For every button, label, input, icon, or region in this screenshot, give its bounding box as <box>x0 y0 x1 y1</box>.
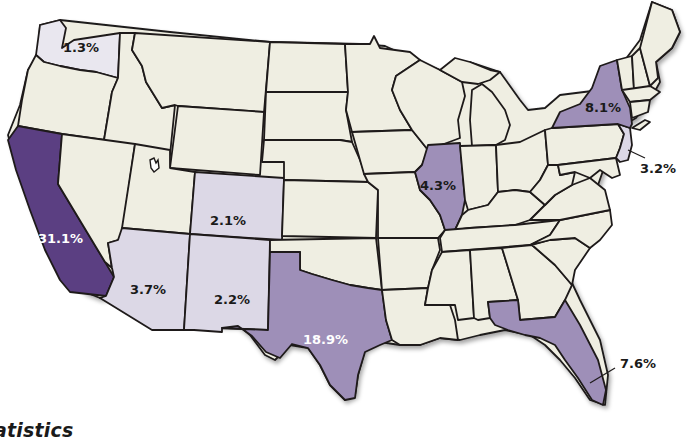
state-connecticut <box>630 100 650 118</box>
label-washington: 1.3% <box>63 40 99 55</box>
label-texas: 18.9% <box>303 332 348 347</box>
state-new-mexico <box>184 234 270 332</box>
state-south-dakota <box>264 92 352 142</box>
state-colorado <box>190 172 284 240</box>
label-new-york: 8.1% <box>585 100 621 115</box>
nj-leader-line <box>628 150 645 158</box>
state-massachusetts <box>622 86 660 102</box>
label-arizona: 3.7% <box>130 282 166 297</box>
long-island <box>632 120 650 130</box>
label-colorado: 2.1% <box>210 213 246 228</box>
section-title-fragment: atistics <box>0 419 74 439</box>
state-maine <box>640 2 680 86</box>
state-wyoming <box>170 106 264 175</box>
label-florida: 7.6% <box>620 356 656 371</box>
label-illinois: 4.3% <box>420 178 456 193</box>
label-new-mexico: 2.2% <box>214 292 250 307</box>
label-new-jersey: 3.2% <box>640 161 676 176</box>
state-arizona <box>100 228 190 330</box>
state-north-dakota <box>266 42 348 92</box>
us-map: 1.3% 31.1% 3.7% 2.1% 2.2% 18.9% 4.3% 8.1… <box>0 0 694 439</box>
state-kansas <box>282 180 378 238</box>
label-california: 31.1% <box>38 231 83 246</box>
